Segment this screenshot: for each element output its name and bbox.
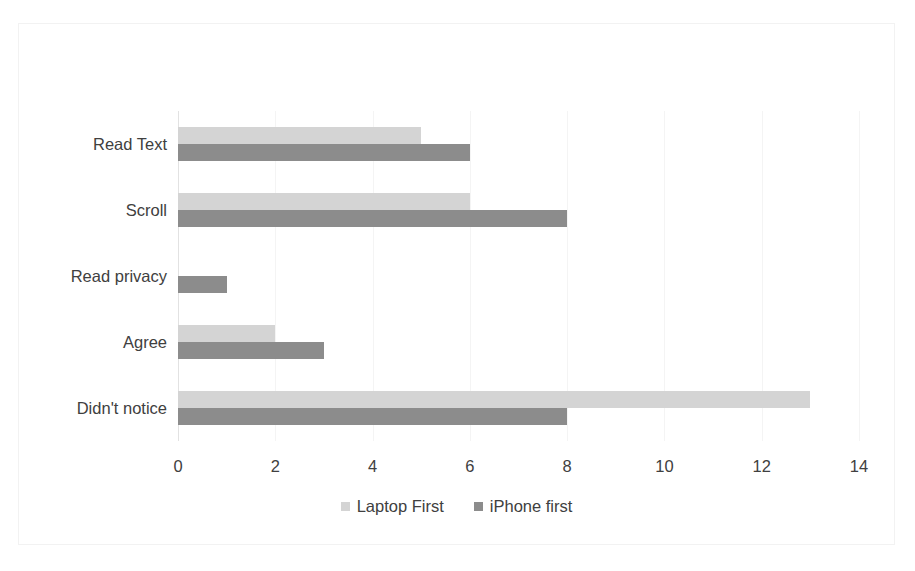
bar-iphone-first[interactable]: [178, 342, 324, 359]
category-label: Agree: [123, 334, 167, 351]
bar-laptop-first[interactable]: [178, 325, 275, 342]
bar-iphone-first[interactable]: [178, 210, 567, 227]
bar-track: [178, 259, 859, 276]
bar-laptop-first[interactable]: [178, 127, 421, 144]
bar-track: [178, 127, 859, 144]
legend-item[interactable]: Laptop First: [341, 498, 444, 515]
legend-item[interactable]: iPhone first: [474, 498, 573, 515]
bar-iphone-first[interactable]: [178, 144, 470, 161]
bar-iphone-first[interactable]: [178, 408, 567, 425]
bar-track: [178, 342, 859, 359]
legend-swatch-icon: [341, 502, 350, 511]
bar-track: [178, 391, 859, 408]
x-tick-label: 6: [465, 458, 474, 475]
x-tick-label: 14: [850, 458, 868, 475]
bar-laptop-first[interactable]: [178, 193, 470, 210]
chart-legend: Laptop FirstiPhone first: [19, 498, 894, 515]
category-group: Agree: [178, 309, 859, 375]
x-tick-label: 4: [368, 458, 377, 475]
bar-track: [178, 210, 859, 227]
bar-laptop-first[interactable]: [178, 391, 810, 408]
bar-iphone-first[interactable]: [178, 276, 227, 293]
category-label: Scroll: [126, 202, 167, 219]
plot-area: Read TextScrollRead privacyAgreeDidn't n…: [178, 111, 859, 441]
category-group: Scroll: [178, 177, 859, 243]
category-label: Read privacy: [71, 268, 167, 285]
bar-track: [178, 325, 859, 342]
category-group: Read privacy: [178, 243, 859, 309]
category-group: Read Text: [178, 111, 859, 177]
bar-track: [178, 144, 859, 161]
bar-track: [178, 193, 859, 210]
chart-container: Read TextScrollRead privacyAgreeDidn't n…: [18, 23, 895, 545]
bar-track: [178, 276, 859, 293]
x-tick-label: 12: [753, 458, 771, 475]
x-tick-label: 8: [563, 458, 572, 475]
x-tick-label: 0: [173, 458, 182, 475]
legend-swatch-icon: [474, 502, 483, 511]
category-group: Didn't notice: [178, 375, 859, 441]
category-label: Read Text: [93, 136, 167, 153]
x-tick-label: 10: [655, 458, 673, 475]
x-axis: 02468101214: [178, 458, 859, 484]
bar-rows: Read TextScrollRead privacyAgreeDidn't n…: [178, 111, 859, 441]
bar-track: [178, 408, 859, 425]
x-tick-label: 2: [271, 458, 280, 475]
legend-label: iPhone first: [490, 498, 573, 515]
category-label: Didn't notice: [77, 400, 167, 417]
legend-label: Laptop First: [357, 498, 444, 515]
gridline: [859, 111, 860, 441]
